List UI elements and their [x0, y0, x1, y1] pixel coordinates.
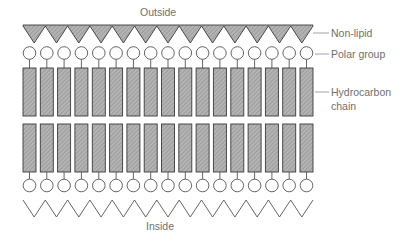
hydrocarbon-chain	[58, 68, 71, 116]
hydrocarbon-label-line1: Hydrocarbon	[331, 86, 391, 98]
polar-head	[144, 179, 157, 192]
hydrocarbon-chain	[162, 124, 175, 172]
polar-head	[300, 179, 313, 192]
hydrocarbon-chain	[283, 68, 296, 116]
hydrocarbon-chain	[231, 124, 244, 172]
polar-head	[231, 179, 244, 192]
hydrocarbon-chain	[248, 124, 261, 172]
non-lipid-layer	[23, 25, 313, 43]
hydrocarbon-chain	[231, 68, 244, 116]
polar-head	[41, 179, 54, 192]
leader-lines	[313, 33, 329, 92]
polar-head	[196, 47, 209, 60]
polar-head	[75, 47, 88, 60]
hydrocarbon-chain	[23, 68, 36, 116]
hydrocarbon-chain	[162, 68, 175, 116]
polar-head	[196, 179, 209, 192]
polar-head	[248, 47, 261, 60]
polar-head	[162, 179, 175, 192]
hydrocarbon-chain	[40, 68, 53, 116]
hydrocarbon-chain	[265, 124, 278, 172]
inner-polar-groups	[23, 172, 313, 192]
outer-polar-groups	[23, 47, 313, 68]
hydrocarbon-chain	[40, 124, 53, 172]
polar-head	[266, 179, 279, 192]
hydrocarbon-chain	[283, 124, 296, 172]
polar-head	[266, 47, 279, 60]
polar-head	[23, 47, 36, 60]
hydrocarbon-label-line2: chain	[331, 100, 356, 112]
hydrocarbon-chain	[179, 124, 192, 172]
hydrocarbon-chain	[248, 68, 261, 116]
inner-hydrocarbon-chains	[23, 124, 313, 172]
hydrocarbon-chain	[300, 124, 313, 172]
hydrocarbon-chain	[127, 68, 140, 116]
outer-hydrocarbon-chains	[23, 68, 313, 116]
hydrocarbon-chain	[110, 124, 123, 172]
hydrocarbon-chain	[127, 124, 140, 172]
polar-head	[300, 47, 313, 60]
inside-label: Inside	[146, 220, 174, 232]
hydrocarbon-chain	[92, 68, 105, 116]
polar-head	[179, 47, 192, 60]
hydrocarbon-chain	[75, 68, 88, 116]
polar-head	[127, 47, 140, 60]
polar-head	[58, 47, 71, 60]
polar-head	[93, 47, 106, 60]
polar-head	[214, 179, 227, 192]
polar-head	[41, 47, 54, 60]
polar-head	[93, 179, 106, 192]
hydrocarbon-chain	[110, 68, 123, 116]
outside-label: Outside	[140, 6, 176, 18]
hydrocarbon-chain	[23, 124, 36, 172]
hydrocarbon-chain	[75, 124, 88, 172]
polar-head	[214, 47, 227, 60]
hydrocarbon-chain	[300, 68, 313, 116]
polar-head	[127, 179, 140, 192]
inner-non-lipid-zigzag	[23, 200, 313, 217]
hydrocarbon-chain	[265, 68, 278, 116]
hydrocarbon-chain	[196, 124, 209, 172]
hydrocarbon-chain	[144, 124, 157, 172]
polar-head	[162, 47, 175, 60]
hydrocarbon-chain	[213, 124, 226, 172]
polar-head	[110, 47, 123, 60]
polar-head	[75, 179, 88, 192]
hydrocarbon-chain	[58, 124, 71, 172]
hydrocarbon-chain	[92, 124, 105, 172]
polar-head	[144, 47, 157, 60]
polar-group-label: Polar group	[331, 48, 385, 60]
polar-head	[23, 179, 36, 192]
inside-zigzag-line	[23, 200, 313, 217]
bilayer-diagram: Outside Non-lipid Polar group Hydrocarbo…	[0, 0, 411, 242]
hydrocarbon-chain	[144, 68, 157, 116]
polar-head	[283, 179, 296, 192]
polar-head	[58, 179, 71, 192]
polar-head	[283, 47, 296, 60]
polar-head	[231, 47, 244, 60]
non-lipid-label: Non-lipid	[331, 27, 372, 39]
polar-head	[248, 179, 261, 192]
hydrocarbon-chain	[179, 68, 192, 116]
hydrocarbon-chain	[196, 68, 209, 116]
polar-head	[179, 179, 192, 192]
non-lipid-band	[23, 25, 313, 43]
polar-head	[110, 179, 123, 192]
hydrocarbon-chain	[213, 68, 226, 116]
